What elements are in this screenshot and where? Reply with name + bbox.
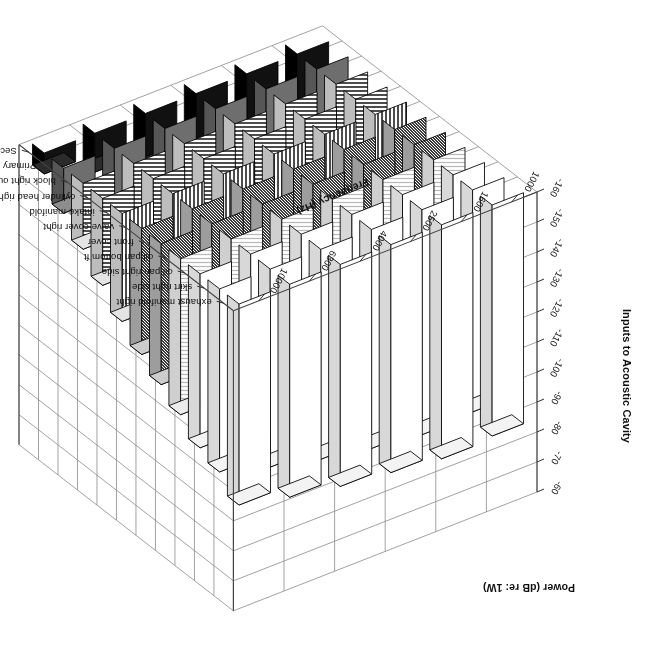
subsystem-tick-label: cylinder head right outer — [0, 192, 75, 203]
subsystem-tick-label: Primary intake port — [0, 161, 36, 172]
figure-title: Inputs to Acoustic Cavity — [621, 309, 633, 443]
subsystem-tick-label: exhaust manifold right — [117, 297, 212, 308]
subsystem-tick-label: intake manifold — [29, 207, 94, 218]
subsystem-tick-label: front cover — [88, 237, 134, 248]
subsystem-tick-label: skirt right side — [132, 282, 192, 293]
subsystem-tick-label: Secondary intake port — [0, 146, 17, 157]
subsystem-tick-label: oil pan bottom ft — [84, 252, 153, 263]
subsystem-tick-label: block right outer — [0, 176, 56, 187]
subsystem-tick-label: valve cover right — [43, 222, 114, 233]
power-axis-title: Power (dB re: 1W) — [483, 582, 575, 594]
chart-figure: -60-70-80-90-100-110-120-130-140-150-160… — [0, 0, 655, 668]
chart-stage: -60-70-80-90-100-110-120-130-140-150-160… — [0, 0, 655, 668]
subsystem-tick-label: oil pan right side — [102, 267, 173, 278]
